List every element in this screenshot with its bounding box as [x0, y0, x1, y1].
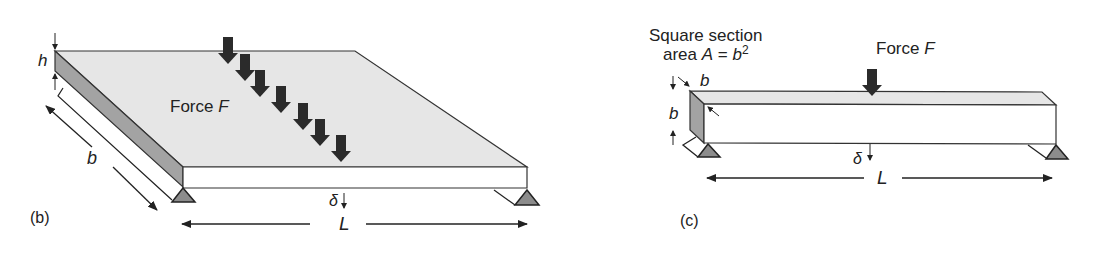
- force-label-b: Force F: [170, 97, 230, 116]
- support-right-icon: [515, 190, 539, 205]
- support-left-icon: [172, 188, 195, 202]
- diagram-canvas: Force F h b δ L (b) Fo: [0, 0, 1098, 256]
- deflection-label-b: δ: [329, 192, 339, 209]
- plate-top-face: [55, 51, 527, 167]
- b-width-label: b: [700, 71, 709, 90]
- b-dim-arrow-lower: [113, 167, 157, 210]
- l-label-b: L: [339, 213, 350, 234]
- deflection-label-c: δ: [853, 150, 863, 167]
- panel-label-b: (b): [30, 209, 50, 226]
- section-label-line2: area A = b2: [663, 43, 749, 64]
- back-support-outline-right: [494, 190, 515, 205]
- force-label-c: Force F: [876, 39, 936, 58]
- plate-front-face: [183, 167, 527, 188]
- panel-c: Force F Square section area A = b2 b b δ…: [649, 26, 1068, 229]
- back-support-outline-left-c: [683, 137, 698, 157]
- b-height-label: b: [669, 104, 678, 123]
- b-width-arrow-diag: [678, 77, 689, 86]
- panel-b: Force F h b δ L (b): [30, 33, 539, 234]
- back-support-outline-right-c: [1028, 145, 1046, 158]
- support-left-icon-c: [698, 144, 720, 157]
- b-label-b: b: [87, 148, 97, 168]
- panel-label-c: (c): [680, 212, 699, 229]
- b-dim-arrow-upper: [46, 106, 92, 147]
- support-right-icon-c: [1046, 145, 1068, 159]
- beam-front-face: [704, 104, 1056, 144]
- l-label-c: L: [877, 167, 888, 188]
- h-label: h: [38, 51, 47, 70]
